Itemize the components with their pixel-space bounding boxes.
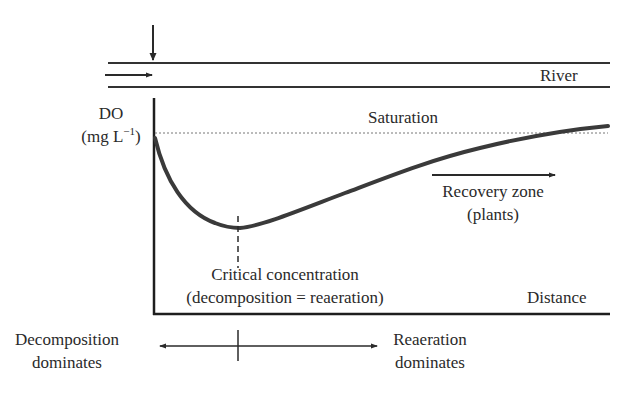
y-axis-label-line1: DO: [66, 104, 156, 124]
recovery-zone-label: Recovery zone (plants): [418, 182, 568, 225]
reaeration-label-line2: dominates: [380, 353, 480, 373]
x-axis-label: Distance: [527, 288, 586, 308]
y-axis-unit-exponent: −1: [123, 125, 135, 137]
critical-concentration-label: Critical concentration (decomposition = …: [155, 265, 415, 308]
critical-label-line1: Critical concentration: [155, 265, 415, 285]
y-axis-label-line2: (mg L−1): [66, 127, 156, 147]
decomposition-label-line2: dominates: [0, 353, 134, 373]
recovery-zone-label-line1: Recovery zone: [418, 182, 568, 202]
reaeration-dominates-label: Reaeration dominates: [380, 330, 480, 373]
river-label: River: [540, 66, 578, 86]
y-axis-unit: (mg L: [81, 127, 123, 146]
reaeration-label-line1: Reaeration: [380, 330, 480, 350]
decomposition-dominates-label: Decomposition dominates: [0, 330, 134, 373]
dominance-double-arrow-icon: [160, 330, 377, 361]
saturation-label: Saturation: [368, 108, 438, 128]
recovery-zone-label-line2: (plants): [418, 205, 568, 225]
y-axis-unit-close: ): [135, 127, 141, 146]
decomposition-label-line1: Decomposition: [0, 330, 134, 350]
critical-label-line2: (decomposition = reaeration): [155, 288, 415, 308]
y-axis-label: DO (mg L−1): [66, 104, 156, 147]
